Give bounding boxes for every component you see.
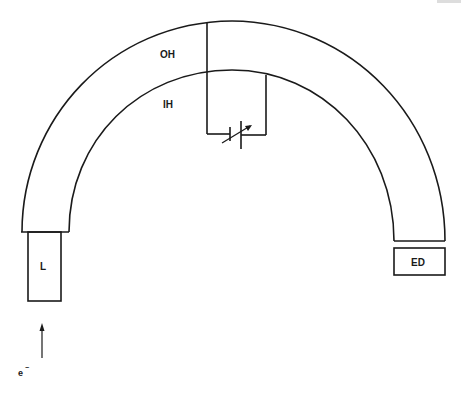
inner-hemisphere-arc — [69, 70, 394, 241]
analyzer-diagram: OH IH L ED e − — [0, 0, 466, 397]
electron-charge-label: − — [25, 364, 29, 371]
inner-hemisphere-label: IH — [163, 99, 173, 110]
outer-hemisphere-arc — [22, 21, 445, 241]
cropped-figure-mark — [437, 0, 461, 3]
electron-arrow-icon — [40, 323, 45, 358]
lens-label: L — [40, 261, 46, 272]
electron-label: e — [18, 368, 23, 378]
electron-detector-label: ED — [411, 257, 425, 268]
outer-hemisphere-label: OH — [160, 49, 175, 60]
